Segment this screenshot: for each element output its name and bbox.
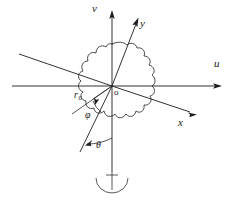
- angle-label-phi: φ: [85, 110, 91, 120]
- axis-label-u: u: [214, 58, 220, 69]
- axis-label-x: x: [178, 117, 183, 128]
- arrowhead-downright-small-icon: [94, 98, 99, 105]
- angle-label-theta: θ: [96, 140, 101, 150]
- axis-label-v: v: [92, 3, 97, 14]
- axis-label-y: y: [140, 18, 145, 29]
- radius-label-subscript: 0: [78, 94, 82, 102]
- irregular-cross-section-shape: [79, 42, 155, 118]
- arrowhead-arc-icon: [85, 140, 93, 146]
- axis-line-x-negative: [19, 54, 112, 86]
- figure-container: v y u x o r0 φ θ: [0, 0, 234, 203]
- axis-line-y: [112, 24, 136, 86]
- origin-label: o: [114, 88, 119, 97]
- axis-line-x: [112, 86, 190, 112]
- diagram-canvas: [0, 0, 234, 203]
- arrowhead-downright-icon: [188, 112, 197, 117]
- radius-label: r0: [74, 90, 82, 102]
